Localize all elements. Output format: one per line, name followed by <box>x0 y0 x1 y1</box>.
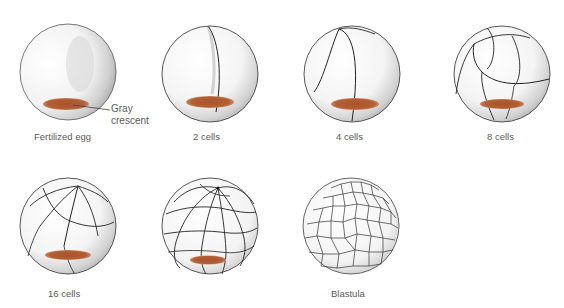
blastula-drawing <box>301 176 401 276</box>
stage-32-cells <box>160 176 260 276</box>
fertilized-egg-drawing <box>18 22 118 122</box>
gray-crescent-label: Gray crescent <box>111 103 149 127</box>
gray-crescent <box>186 96 234 108</box>
gray-crescent <box>45 250 91 260</box>
label-4-cells: 4 cells <box>336 131 363 142</box>
callout-line2: crescent <box>111 115 149 127</box>
label-2-cells: 2 cells <box>193 131 220 142</box>
gray-crescent <box>190 256 226 265</box>
stage-blastula <box>301 176 401 276</box>
label-fertilized-egg: Fertilized egg <box>34 131 91 142</box>
label-blastula: Blastula <box>331 288 365 299</box>
stage-16-cells <box>18 176 118 276</box>
stage-8-cells <box>452 24 552 124</box>
label-8-cells: 8 cells <box>487 131 514 142</box>
gray-crescent <box>480 99 524 109</box>
stage-fertilized-egg <box>18 22 118 122</box>
gray-crescent <box>331 98 379 110</box>
32-cells-drawing <box>160 176 260 276</box>
label-16-cells: 16 cells <box>48 288 80 299</box>
4-cells-drawing <box>302 24 402 124</box>
stage-2-cells <box>160 24 260 124</box>
2-cells-drawing <box>160 24 260 124</box>
8-cells-drawing <box>452 24 552 124</box>
16-cells-drawing <box>18 176 118 276</box>
gray-crescent <box>43 98 89 110</box>
stage-4-cells <box>302 24 402 124</box>
callout-line1: Gray <box>111 103 149 115</box>
